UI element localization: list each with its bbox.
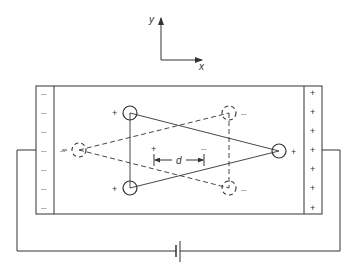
positive-ion-right-label: +	[291, 147, 296, 157]
svg-text:+: +	[310, 126, 315, 136]
displacement-marker: + -- d	[151, 144, 207, 166]
svg-text:--: --	[41, 203, 47, 212]
svg-text:+: +	[310, 164, 315, 174]
capacitor	[36, 86, 322, 214]
polarization-diagram: y x -- -- -- -- -- -- -- + + + + + + +	[0, 0, 359, 274]
positive-ion-lower-left-label: +	[112, 184, 117, 194]
svg-text:+: +	[310, 183, 315, 193]
coordinate-axes: y x	[148, 14, 205, 72]
svg-text:--: --	[41, 127, 47, 136]
positive-ion-upper-left-label: +	[112, 108, 117, 118]
svg-text:+: +	[310, 107, 315, 117]
x-axis-label: x	[198, 61, 205, 72]
d-label: d	[176, 155, 182, 166]
displacement-minus-label: --	[201, 144, 207, 153]
svg-text:--: --	[41, 146, 47, 155]
negative-ion-lattice	[62, 106, 236, 195]
svg-text:+: +	[310, 88, 315, 98]
svg-text:+: +	[310, 203, 315, 213]
y-axis-label: y	[148, 14, 155, 25]
negative-ion-left-label: --	[60, 146, 66, 155]
svg-text:--: --	[41, 165, 47, 174]
negative-ion-upper-right-label: --	[241, 109, 247, 118]
svg-text:+: +	[310, 145, 315, 155]
svg-text:--: --	[41, 108, 47, 117]
svg-text:--: --	[41, 184, 47, 193]
left-plate-charges: -- -- -- -- -- -- --	[41, 89, 47, 212]
circuit	[17, 150, 340, 262]
right-plate-charges: + + + + + + +	[310, 88, 315, 213]
capacitor-outline	[36, 86, 322, 214]
negative-ion-lower-right-label: --	[241, 185, 247, 194]
displacement-plus-label: +	[151, 144, 156, 154]
svg-text:--: --	[41, 89, 47, 98]
